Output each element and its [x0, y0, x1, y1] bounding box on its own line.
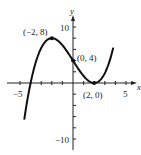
y-max-label: 10	[60, 23, 70, 33]
point-marker	[71, 59, 75, 63]
y-axis-label: y	[69, 6, 74, 16]
y-min-label: −10	[55, 135, 70, 145]
function-graph: x y −5 5 10 −10 (−2, 8) (0, 4) (2, 0)	[0, 0, 141, 155]
function-curve	[24, 38, 113, 119]
point-label-min: (2, 0)	[83, 90, 103, 100]
point-label-yint: (0, 4)	[77, 53, 97, 63]
point-marker	[50, 36, 54, 40]
x-max-label: 5	[123, 89, 128, 99]
x-axis-label: x	[136, 82, 141, 92]
point-label-max: (−2, 8)	[23, 27, 48, 37]
x-min-label: −5	[13, 89, 23, 99]
point-marker	[92, 81, 96, 85]
